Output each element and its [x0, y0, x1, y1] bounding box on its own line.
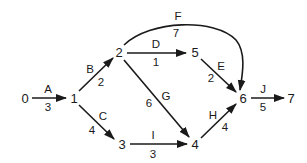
duration-label-I: 3 [150, 148, 156, 160]
arrow-icon [79, 105, 114, 139]
edge-H: H 4 [201, 104, 236, 138]
activity-label-C: C [99, 110, 107, 122]
edge-J: J 5 [251, 83, 284, 113]
duration-label-F: 7 [173, 27, 179, 39]
duration-label-D: 1 [153, 56, 159, 68]
edge-G: G 6 [124, 60, 189, 137]
node-1: 1 [70, 91, 77, 106]
arrow-icon [79, 58, 113, 91]
duration-label-G: 6 [146, 97, 152, 109]
duration-label-H: 4 [222, 121, 229, 133]
arrow-icon [124, 60, 189, 137]
edge-A: A 3 [32, 83, 66, 113]
activity-label-I: I [151, 129, 154, 141]
activity-label-A: A [44, 83, 52, 95]
arrow-icon [201, 104, 236, 138]
edge-E: E 2 [201, 59, 236, 92]
edge-I: I 3 [130, 129, 187, 160]
node-3: 3 [118, 137, 125, 152]
node-5: 5 [191, 45, 198, 60]
duration-label-A: 3 [45, 101, 51, 113]
node-2: 2 [115, 45, 122, 60]
activity-label-F: F [174, 10, 181, 22]
node-7: 7 [287, 91, 294, 106]
node-0: 0 [21, 91, 28, 106]
activity-label-G: G [162, 90, 171, 102]
duration-label-J: 5 [260, 101, 266, 113]
activity-label-E: E [217, 60, 225, 72]
activity-label-J: J [260, 83, 266, 95]
edge-D: D 1 [127, 38, 186, 68]
edge-F: F 7 [124, 10, 243, 90]
duration-label-B: 2 [98, 76, 104, 88]
activity-label-B: B [86, 63, 94, 75]
duration-label-E: 2 [208, 72, 214, 84]
duration-label-C: 4 [89, 124, 96, 136]
edge-B: B 2 [79, 58, 113, 91]
activity-label-D: D [152, 38, 160, 50]
node-6: 6 [239, 91, 246, 106]
activity-label-H: H [209, 109, 217, 121]
network-diagram: A 3 B 2 C 4 D 1 E 2 F 7 G 6 H 4 [0, 0, 307, 163]
node-4: 4 [191, 137, 198, 152]
edge-C: C 4 [79, 105, 114, 139]
